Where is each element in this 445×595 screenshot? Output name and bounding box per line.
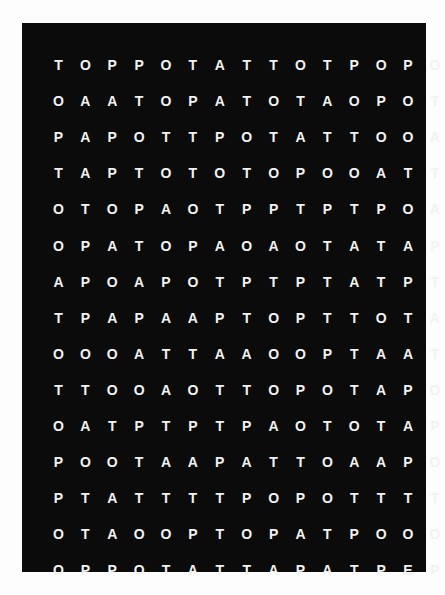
grid-cell: T (421, 155, 445, 191)
grid-cell: P (72, 552, 99, 588)
grid-cell: P (126, 191, 153, 227)
grid-cell: P (179, 516, 206, 552)
grid-cell: O (45, 516, 72, 552)
grid-cell: T (179, 47, 206, 83)
grid-cell: P (421, 227, 445, 263)
grid-cell: O (233, 119, 260, 155)
grid-cell: A (72, 119, 99, 155)
grid-cell: T (341, 336, 368, 372)
grid-cell: O (153, 227, 180, 263)
grid-cell: A (287, 119, 314, 155)
grid-cell: O (99, 264, 126, 300)
grid-cell: A (99, 83, 126, 119)
grid-cell: T (233, 47, 260, 83)
grid-cell: P (314, 336, 341, 372)
grid-cell: O (260, 155, 287, 191)
grid-cell: T (421, 264, 445, 300)
grid-cell: O (153, 83, 180, 119)
grid-cell: E (395, 552, 422, 588)
grid-cell: O (314, 444, 341, 480)
grid-cell: T (341, 119, 368, 155)
grid-cell: A (421, 300, 445, 336)
grid-cell: O (421, 372, 445, 408)
grid-cell: T (260, 444, 287, 480)
grid-cell: T (206, 516, 233, 552)
grid-cell: O (179, 372, 206, 408)
grid-cell: P (287, 264, 314, 300)
page: T O P P O T A T T O T P O P O O A A T O … (0, 0, 445, 595)
grid-cell: T (233, 372, 260, 408)
grid-cell: O (45, 227, 72, 263)
grid-cell: A (341, 264, 368, 300)
grid-cell: T (368, 408, 395, 444)
grid-cell: T (287, 191, 314, 227)
grid-cell: T (314, 264, 341, 300)
grid-cell: P (179, 227, 206, 263)
grid-cell: T (395, 480, 422, 516)
grid-cell: T (179, 119, 206, 155)
grid-cell: T (260, 264, 287, 300)
grid-cell: O (287, 408, 314, 444)
grid-cell: T (341, 372, 368, 408)
grid-cell: O (421, 516, 445, 552)
grid-cell: A (368, 372, 395, 408)
grid-cell: A (153, 191, 180, 227)
grid-cell: O (368, 516, 395, 552)
grid-cell: O (45, 552, 72, 588)
grid-cell: A (72, 83, 99, 119)
grid-cell: O (153, 516, 180, 552)
grid-cell: A (153, 372, 180, 408)
letter-grid-panel: T O P P O T A T T O T P O P O O A A T O … (22, 23, 426, 572)
grid-cell: A (153, 444, 180, 480)
grid-cell: T (341, 552, 368, 588)
grid-cell: O (260, 83, 287, 119)
grid-cell: T (72, 372, 99, 408)
grid-cell: O (206, 155, 233, 191)
grid-cell: T (395, 155, 422, 191)
grid-cell: T (341, 480, 368, 516)
grid-cell: P (287, 372, 314, 408)
grid-cell: O (72, 47, 99, 83)
grid-cell: O (395, 83, 422, 119)
grid-cell: A (99, 516, 126, 552)
grid-cell: O (99, 336, 126, 372)
grid-cell: O (179, 191, 206, 227)
grid-cell: T (206, 264, 233, 300)
grid-cell: P (314, 191, 341, 227)
grid-cell: P (179, 408, 206, 444)
grid-cell: O (341, 408, 368, 444)
grid-cell: P (368, 552, 395, 588)
grid-cell: A (287, 516, 314, 552)
grid-cell: O (260, 372, 287, 408)
grid-cell: O (72, 444, 99, 480)
grid-cell: O (45, 408, 72, 444)
grid-cell: T (314, 516, 341, 552)
grid-cell: T (45, 155, 72, 191)
grid-cell: O (233, 516, 260, 552)
grid-cell: T (206, 480, 233, 516)
grid-cell: T (72, 480, 99, 516)
grid-cell: O (45, 191, 72, 227)
grid-cell: A (72, 155, 99, 191)
grid-cell: A (395, 227, 422, 263)
grid-cell: P (99, 552, 126, 588)
grid-cell: T (314, 47, 341, 83)
grid-cell: P (421, 552, 445, 588)
grid-cell: P (126, 47, 153, 83)
grid-cell: T (287, 444, 314, 480)
grid-cell: O (287, 227, 314, 263)
grid-cell: A (99, 300, 126, 336)
grid-cell: P (368, 191, 395, 227)
grid-cell: A (421, 119, 445, 155)
grid-cell: T (45, 47, 72, 83)
grid-cell: O (153, 47, 180, 83)
grid-cell: T (233, 155, 260, 191)
grid-cell: O (179, 264, 206, 300)
grid-cell: P (341, 47, 368, 83)
grid-cell: O (126, 516, 153, 552)
grid-cell: T (314, 408, 341, 444)
grid-cell: O (233, 227, 260, 263)
grid-cell: P (206, 119, 233, 155)
grid-cell: T (421, 83, 445, 119)
grid-cell: A (179, 552, 206, 588)
